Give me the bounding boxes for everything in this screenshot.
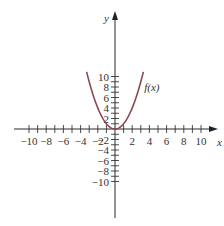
y-tick-label: 8 — [104, 81, 110, 93]
x-tick-label: 6 — [164, 135, 170, 147]
y-tick-label: −6 — [97, 155, 109, 167]
y-tick-label: −10 — [92, 176, 110, 188]
x-axis-arrow — [209, 126, 218, 132]
y-tick-label: −2 — [97, 134, 109, 146]
y-axis-arrow — [112, 11, 118, 20]
x-tick-label: −10 — [20, 135, 38, 147]
y-tick-label: 4 — [104, 102, 110, 114]
x-tick-label: −8 — [40, 135, 52, 147]
series-label-f: f(x) — [144, 81, 160, 94]
y-axis-label: y — [103, 12, 109, 24]
x-tick-label: −6 — [58, 135, 70, 147]
chart: x y −10−8−6−4−2246810−10−8−6−4−2246810 f… — [0, 0, 224, 226]
x-tick-label: 8 — [181, 135, 187, 147]
x-tick-label: 4 — [147, 135, 153, 147]
x-tick-label: −4 — [75, 135, 87, 147]
y-tick-label: 6 — [104, 92, 110, 104]
x-axis-label: x — [216, 136, 222, 148]
y-tick-label: −8 — [97, 165, 109, 177]
x-tick-label: 10 — [196, 135, 208, 147]
y-tick-label: 10 — [98, 71, 110, 83]
x-tick-label: 2 — [129, 135, 135, 147]
y-tick-label: −4 — [97, 144, 109, 156]
